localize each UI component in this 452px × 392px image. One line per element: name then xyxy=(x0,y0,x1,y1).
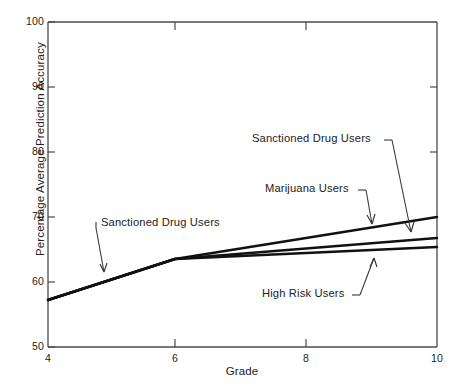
series-sanctioned-drug-users xyxy=(48,217,437,300)
x-tick-label-10: 10 xyxy=(425,352,449,364)
annotation-sanctioned-drug-users-right: Sanctioned Drug Users xyxy=(252,132,371,144)
y-axis-ticks-right xyxy=(430,87,437,152)
x-tick-label-8: 8 xyxy=(294,352,318,364)
x-tick-label-4: 4 xyxy=(36,352,60,364)
annotation-sanctioned-drug-users-left: Sanctioned Drug Users xyxy=(101,216,220,228)
annotation-high-risk-users: High Risk Users xyxy=(262,287,344,299)
y-tick-label-100: 100 xyxy=(18,15,44,27)
chart-canvas xyxy=(0,0,452,392)
y-axis-label: Percentage Average Prediction Accuracy xyxy=(34,56,46,256)
series-high-risk-users xyxy=(48,247,437,300)
y-tick-label-60: 60 xyxy=(18,275,44,287)
x-axis-label: Grade xyxy=(192,365,292,377)
chart-figure: 100 90 80 70 60 50 4 6 8 10 Percentage A… xyxy=(0,0,452,392)
annotation-marijuana-users: Marijuana Users xyxy=(265,182,349,194)
y-tick-label-50: 50 xyxy=(18,340,44,352)
x-tick-label-6: 6 xyxy=(163,352,187,364)
axis-lines xyxy=(48,22,437,347)
